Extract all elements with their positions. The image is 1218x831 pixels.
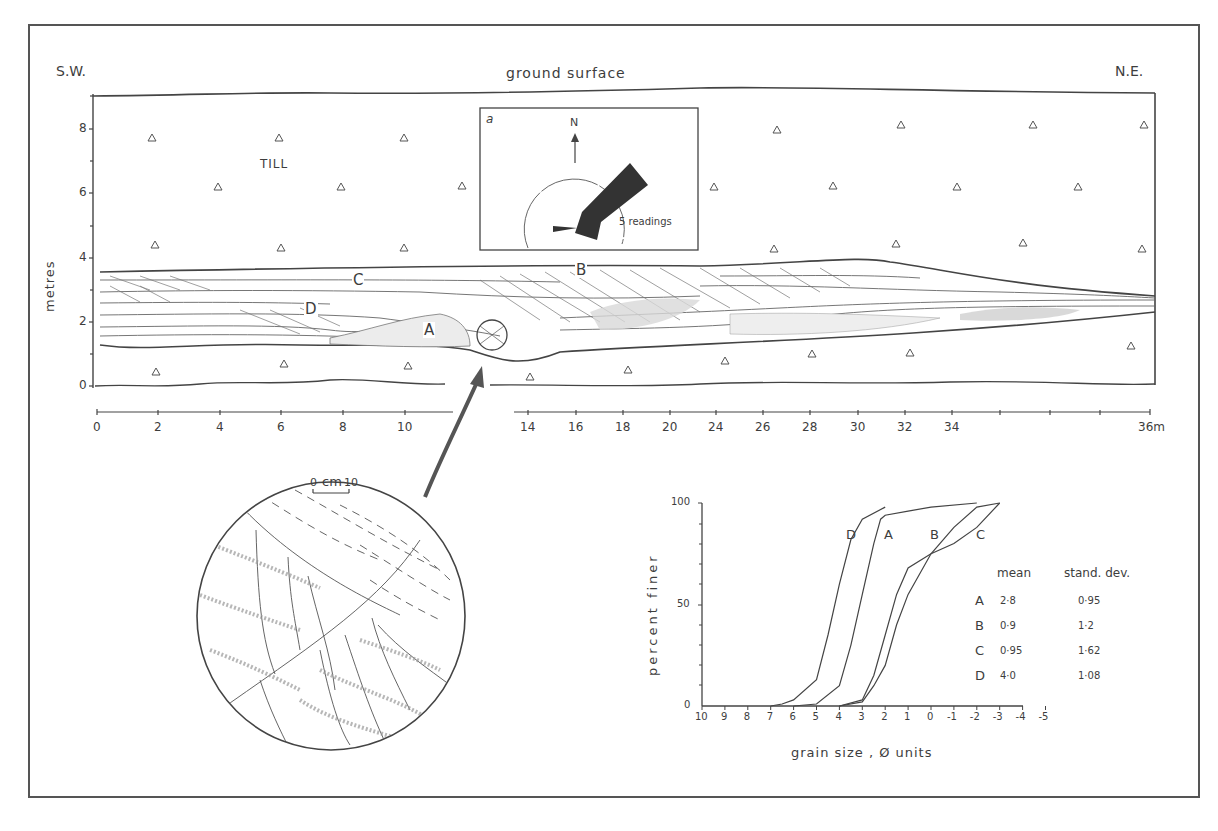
- rose-inset-label: a: [486, 112, 493, 126]
- y-tick: 4: [79, 250, 87, 264]
- detail-scale-max: 10: [344, 476, 358, 489]
- detail-scale-zero: 0: [310, 476, 317, 489]
- stats-unit: D: [975, 668, 985, 683]
- gs-x-tick: 10: [695, 711, 708, 722]
- y-axis-label-metres: metres: [42, 260, 57, 312]
- curve-label-a: A: [884, 527, 893, 542]
- grain-size-curve-d: [771, 507, 886, 706]
- gs-x-tick: 9: [721, 711, 727, 722]
- rose-scale-text: 5 readings: [619, 216, 672, 227]
- y-tick: 2: [79, 314, 87, 328]
- gs-x-tick: 2: [881, 711, 887, 722]
- gs-y-tick: 0: [684, 699, 690, 710]
- stats-header-mean: mean: [997, 566, 1031, 580]
- gs-x-tick: -3: [993, 711, 1003, 722]
- x-tick: 6: [277, 420, 285, 434]
- north-arrow-icon: N: [570, 116, 578, 129]
- y-tick: 8: [79, 121, 87, 135]
- gs-x-tick: 7: [767, 711, 773, 722]
- x-tick: 14: [520, 420, 535, 434]
- y-tick: 6: [79, 185, 87, 199]
- gs-x-tick: 4: [835, 711, 841, 722]
- x-tick: 2: [154, 420, 162, 434]
- stats-unit: C: [975, 643, 984, 658]
- detail-scale-unit: cm: [322, 474, 342, 489]
- ground-surface-label: ground surface: [506, 65, 626, 81]
- gs-y-tick: 50: [677, 598, 690, 609]
- stats-mean: 0·95: [1000, 645, 1022, 656]
- till-label: TILL: [260, 157, 288, 171]
- gs-x-tick: 8: [744, 711, 750, 722]
- stats-sd: 1·08: [1078, 670, 1100, 681]
- x-tick: 20: [662, 420, 677, 434]
- stats-sd: 1·2: [1078, 620, 1094, 631]
- gs-x-tick: 0: [927, 711, 933, 722]
- stats-sd: 0·95: [1078, 595, 1100, 606]
- gs-x-tick: -5: [1039, 711, 1049, 722]
- x-tick: 30: [850, 420, 865, 434]
- section-drawing: [0, 0, 1218, 831]
- x-tick: 28: [802, 420, 817, 434]
- x-tick: 8: [339, 420, 347, 434]
- x-tick: 0: [93, 420, 101, 434]
- curve-label-b: B: [930, 527, 939, 542]
- unit-label-d: D: [304, 301, 318, 317]
- gs-y-axis-label: percent finer: [645, 553, 660, 676]
- x-tick: 18: [615, 420, 630, 434]
- unit-label-c: C: [352, 272, 364, 288]
- gs-x-tick: 6: [790, 711, 796, 722]
- x-tick: 24: [708, 420, 723, 434]
- unit-label-a: A: [423, 322, 435, 338]
- stats-unit: A: [975, 593, 984, 608]
- gs-x-tick: 3: [858, 711, 864, 722]
- gs-x-axis-label: grain size , Ø units: [791, 745, 932, 760]
- stats-mean: 0·9: [1000, 620, 1016, 631]
- gs-x-tick: 1: [904, 711, 910, 722]
- gs-x-tick: -2: [970, 711, 980, 722]
- stats-header-sd: stand. dev.: [1064, 566, 1130, 580]
- unit-label-b: B: [575, 262, 587, 278]
- x-tick: 32: [897, 420, 912, 434]
- stats-mean: 4·0: [1000, 670, 1016, 681]
- x-tick: 36m: [1138, 420, 1165, 434]
- gs-x-tick: -1: [947, 711, 957, 722]
- x-tick: 34: [944, 420, 959, 434]
- stats-mean: 2·8: [1000, 595, 1016, 606]
- gs-x-tick: -4: [1016, 711, 1026, 722]
- x-tick: 16: [568, 420, 583, 434]
- stats-unit: B: [975, 618, 984, 633]
- y-tick: 0: [79, 378, 87, 392]
- curve-label-c: C: [976, 527, 985, 542]
- curve-label-d: D: [846, 527, 856, 542]
- x-tick: 4: [216, 420, 224, 434]
- gs-y-tick: 100: [671, 496, 690, 507]
- direction-label-sw: S.W.: [56, 63, 86, 79]
- north-label: N: [570, 116, 578, 129]
- direction-label-ne: N.E.: [1115, 63, 1143, 79]
- x-tick: 26: [755, 420, 770, 434]
- gs-x-tick: 5: [813, 711, 819, 722]
- x-tick: 10: [397, 420, 412, 434]
- stats-sd: 1·62: [1078, 645, 1100, 656]
